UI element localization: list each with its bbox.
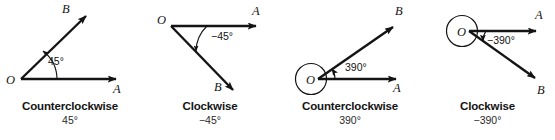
caption-measure: −390° — [420, 114, 555, 127]
panel-counterclockwise-390: O B A 390° Counterclockwise 390° — [280, 0, 420, 140]
caption-measure: −45° — [140, 114, 280, 127]
vertex-label-o: O — [6, 73, 15, 87]
caption-direction: Clockwise — [140, 100, 280, 113]
ray-label-a: A — [392, 81, 401, 95]
panel-2-drawing: O A B −45° — [140, 0, 280, 100]
angle-measure-label: 45° — [48, 55, 64, 67]
angle-arc — [196, 26, 207, 51]
caption-measure: 45° — [0, 114, 140, 127]
angle-measure-label: −45° — [211, 30, 233, 42]
ray-label-a: A — [534, 8, 543, 22]
ray-label-b: B — [395, 4, 403, 18]
caption-direction: Counterclockwise — [0, 100, 140, 113]
caption-direction: Counterclockwise — [280, 100, 420, 113]
panel-counterclockwise-45: O B A 45° Counterclockwise 45° — [0, 0, 140, 140]
angle-measure-label: 390° — [345, 61, 367, 73]
panel-1-drawing: O B A 45° — [0, 0, 140, 100]
panel-clockwise-45: O A B −45° Clockwise −45° — [140, 0, 280, 140]
ray-label-a: A — [112, 82, 121, 96]
caption-measure: 390° — [280, 114, 420, 127]
angle-arc — [332, 69, 335, 79]
panel-3-caption: Counterclockwise 390° — [280, 100, 420, 127]
panel-4-caption: Clockwise −390° — [420, 100, 555, 127]
panel-4-drawing: O A B −390° — [420, 0, 555, 100]
vertex-label-o: O — [306, 73, 315, 87]
panel-3-drawing: O B A 390° — [280, 0, 420, 100]
ray-label-b: B — [537, 83, 545, 97]
panel-2-caption: Clockwise −45° — [140, 100, 280, 127]
ray-label-b: B — [214, 80, 222, 94]
angle-arc — [483, 31, 486, 41]
panel-1-caption: Counterclockwise 45° — [0, 100, 140, 127]
ray-label-a: A — [251, 4, 260, 18]
angle-diagrams-figure: O B A 45° Counterclockwise 45° — [0, 0, 555, 140]
terminal-ray-ob — [21, 16, 86, 79]
panel-clockwise-390: O A B −390° Clockwise −390° — [420, 0, 555, 140]
vertex-label-o: O — [157, 13, 166, 27]
caption-direction: Clockwise — [420, 100, 555, 113]
angle-measure-label: −390° — [487, 34, 515, 46]
vertex-label-o: O — [457, 25, 466, 39]
ray-label-b: B — [62, 2, 70, 16]
